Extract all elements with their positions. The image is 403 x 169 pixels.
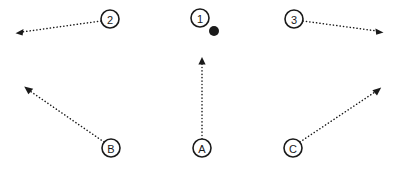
arrow-head-B <box>24 87 33 95</box>
node-B[interactable]: B <box>102 139 120 157</box>
diagram-canvas: 2 1 3 B A C <box>0 0 403 169</box>
node-1[interactable]: 1 <box>191 9 209 27</box>
arrow-from-node-A <box>198 57 205 139</box>
node-B-label: B <box>107 143 114 155</box>
node-C[interactable]: C <box>284 139 302 157</box>
arrow-from-node-C <box>300 88 381 142</box>
arrow-from-node-3 <box>303 21 384 35</box>
node-1-label: 1 <box>197 13 203 25</box>
node-A-label: A <box>198 143 206 155</box>
node-2[interactable]: 2 <box>101 10 119 28</box>
node-3[interactable]: 3 <box>285 10 303 28</box>
arrow-line-B <box>30 91 104 142</box>
arrow-head-A <box>198 57 205 65</box>
node-A[interactable]: A <box>193 139 211 157</box>
filled-dot-marker <box>209 26 219 36</box>
arrow-head-3 <box>375 28 383 34</box>
node-C-label: C <box>289 143 297 155</box>
arrow-line-C <box>300 92 375 142</box>
arrow-from-node-2 <box>16 21 102 35</box>
arrow-head-2 <box>16 29 24 35</box>
arrow-line-2 <box>22 21 101 32</box>
arrow-from-node-B <box>24 87 104 142</box>
node-3-label: 3 <box>291 14 297 26</box>
arrow-line-3 <box>303 21 377 31</box>
diagram-svg: 2 1 3 B A C <box>0 0 403 169</box>
node-2-label: 2 <box>107 14 113 26</box>
arrow-head-C <box>372 88 381 96</box>
